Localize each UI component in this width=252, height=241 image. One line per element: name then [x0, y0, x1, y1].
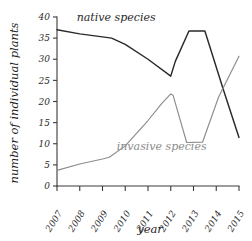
axes [57, 17, 239, 186]
y-tick-label: 30 [39, 54, 51, 64]
y-tick-label: 40 [38, 12, 51, 22]
x-tick-label: 2015 [225, 209, 246, 235]
x-tick-label: 2007 [43, 209, 64, 235]
y-tick-label: 35 [39, 33, 51, 43]
y-tick-label: 25 [38, 76, 51, 86]
series-annotations: native speciesinvasive species [77, 11, 207, 152]
y-tick-label: 10 [39, 139, 51, 149]
x-tick-label: 2013 [180, 209, 201, 235]
y-tick-label: 15 [39, 118, 51, 128]
y-axis-ticks: 0510152025303540 [38, 12, 57, 191]
x-tick-label: 2010 [111, 209, 132, 235]
line-chart: 0510152025303540 20072008200920102011201… [0, 0, 252, 241]
y-tick-label: 20 [38, 97, 51, 107]
chart-container: 0510152025303540 20072008200920102011201… [0, 0, 252, 241]
y-axis-title: number of individual plants [7, 22, 21, 183]
y-tick-label: 5 [44, 160, 50, 170]
x-tick-label: 2008 [66, 209, 87, 235]
x-tick-label: 2014 [202, 209, 223, 235]
x-tick-label: 2009 [89, 209, 110, 235]
series-line-invasive-species [57, 56, 239, 170]
y-tick-label: 0 [44, 181, 50, 191]
x-axis-title: year [136, 222, 164, 236]
series-label-native-species: native species [77, 11, 156, 24]
series-label-invasive-species: invasive species [117, 140, 207, 153]
